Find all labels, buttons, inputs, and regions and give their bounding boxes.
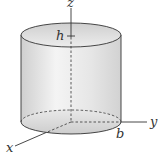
z-axis-label: z — [66, 0, 74, 10]
x-axis-label: x — [6, 140, 14, 155]
x-axis — [15, 133, 45, 146]
cylinder-diagram: z h y b x — [0, 0, 163, 161]
radius-label: b — [116, 126, 124, 141]
y-axis-label: y — [149, 114, 158, 129]
height-label: h — [56, 28, 64, 43]
